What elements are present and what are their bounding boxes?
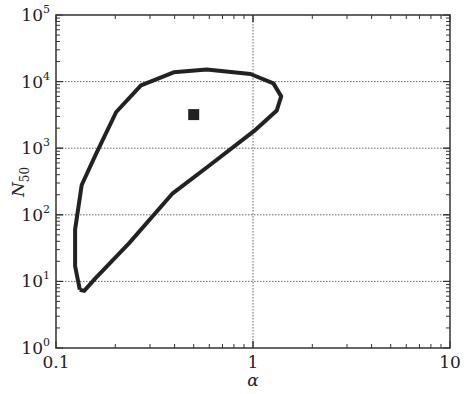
best-estimate-marker (188, 109, 199, 120)
x-tick-labels: 0.1110 (42, 352, 460, 372)
y-tick-label: 104 (21, 70, 50, 92)
x-axis-title: α (247, 370, 259, 390)
y-tick-label: 101 (21, 269, 50, 291)
x-tick-label: 0.1 (42, 352, 69, 372)
x-tick-label: 1 (248, 352, 259, 372)
y-axis-title-main: N (8, 181, 28, 198)
svg-text:N50: N50 (8, 167, 32, 198)
chart: 0.1110 100101102103104105 α N50 (0, 0, 467, 394)
y-tick-label: 105 (21, 3, 50, 25)
contour-curve (75, 70, 281, 291)
grid (56, 15, 450, 348)
y-tick-label: 102 (21, 203, 50, 225)
x-tick-label: 10 (439, 352, 461, 372)
y-axis-title: N50 (8, 167, 32, 198)
y-tick-label: 103 (21, 136, 50, 158)
y-axis-title-sub: 50 (18, 167, 32, 182)
